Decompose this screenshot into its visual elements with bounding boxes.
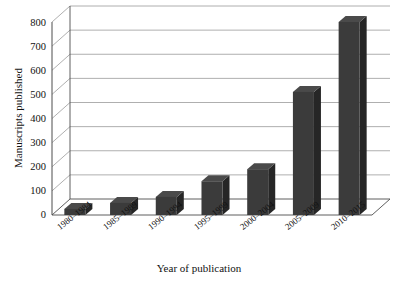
bar-chart: Frequency of radiochromic film publicati…	[0, 0, 398, 294]
bar-column	[293, 86, 321, 215]
bar-column	[339, 16, 367, 215]
plot-area	[0, 0, 398, 294]
